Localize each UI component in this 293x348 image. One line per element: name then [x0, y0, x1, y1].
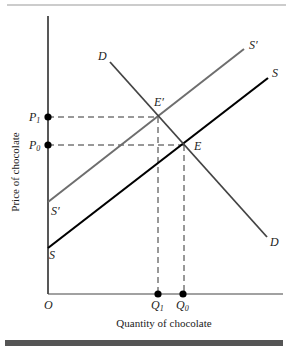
- supply-shifted-label-top: S′: [249, 38, 258, 52]
- bottom-bar: [5, 340, 283, 346]
- q1-marker: [154, 290, 161, 297]
- q1-label: Q1: [151, 298, 164, 313]
- p0-label: P0: [28, 138, 40, 153]
- new-equilibrium-label: E′: [153, 95, 164, 109]
- q0-label: Q0: [176, 298, 189, 313]
- p0-marker: [44, 141, 51, 148]
- origin-label: O: [44, 298, 53, 312]
- equilibrium-label: E: [193, 139, 202, 153]
- x-axis-title: Quantity of chocolate: [116, 317, 211, 329]
- supply-label-bottom: S: [49, 248, 55, 262]
- supply-label-top: S: [272, 66, 278, 80]
- p1-marker: [44, 113, 51, 120]
- demand-curve: [110, 62, 267, 237]
- p1-label: P1: [28, 110, 40, 125]
- supply-shifted-label-bottom: S′: [51, 204, 60, 218]
- supply-demand-diagram: D D S′ S′ S S E′ E P1 P0 Q1 Q0 O Quantit…: [0, 0, 293, 348]
- guide-lines: [48, 117, 184, 294]
- q0-marker: [179, 290, 186, 297]
- demand-label-top: D: [97, 49, 107, 63]
- demand-label-bottom: D: [269, 235, 279, 249]
- y-axis-title: Price of chocolate: [9, 132, 21, 212]
